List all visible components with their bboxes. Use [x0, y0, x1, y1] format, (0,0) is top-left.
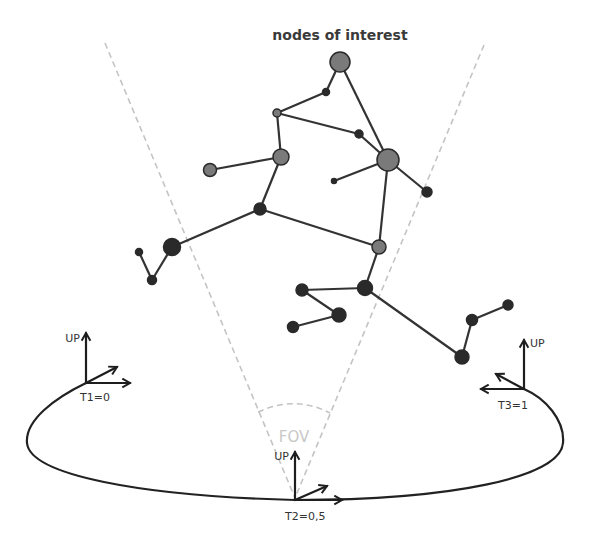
fov-arc [258, 404, 330, 413]
frame-label-t3: T3=1 [497, 399, 528, 412]
fov-cone: FOV [105, 43, 484, 498]
up-label: UP [274, 450, 289, 463]
graph-node [332, 179, 337, 184]
graph-node [503, 300, 513, 310]
fov-right-boundary [295, 45, 484, 498]
graph-node [455, 350, 469, 364]
graph-edge [277, 113, 359, 134]
side-arrow-icon [86, 367, 117, 383]
graph-node [323, 89, 330, 96]
graph-node [377, 149, 399, 171]
side-arrow-icon [295, 486, 327, 500]
graph-node [358, 281, 373, 296]
camera-path-diagram: nodes of interest FOV UP T1=0 UP T2=0,5 … [0, 0, 589, 545]
frame-label-t2: T2=0,5 [284, 510, 325, 523]
fov-label: FOV [279, 428, 310, 446]
graph-edge [260, 209, 379, 247]
graph-node [422, 187, 432, 197]
graph-node [164, 239, 181, 256]
graph-edge [340, 62, 388, 160]
camera-frame-t2: UP T2=0,5 [274, 450, 342, 523]
graph-node [273, 109, 281, 117]
fov-left-boundary [105, 43, 295, 498]
frame-label-t1: T1=0 [79, 391, 110, 404]
up-label: UP [530, 337, 545, 350]
camera-frame-t3: UP T3=1 [481, 337, 545, 412]
up-label: UP [65, 332, 80, 345]
graph-node [330, 52, 350, 72]
graph-edge [302, 288, 365, 290]
side-arrow-icon [496, 374, 524, 389]
graph-node [254, 203, 266, 215]
graph-node [332, 308, 346, 322]
graph-node [204, 164, 217, 177]
camera-frame-t1: UP T1=0 [65, 332, 130, 404]
graph-edge [365, 288, 462, 357]
graph-nodes [136, 52, 514, 364]
graph-node [355, 130, 363, 138]
graph-edges [139, 62, 508, 357]
graph-node [136, 249, 143, 256]
graph-node [372, 240, 386, 254]
graph-node [288, 322, 299, 333]
graph-node [273, 149, 289, 165]
graph-node [148, 276, 157, 285]
graph-node [296, 284, 308, 296]
graph-edge [172, 209, 260, 247]
graph-edge [210, 157, 281, 170]
graph-edge [277, 92, 326, 113]
graph-node [467, 315, 478, 326]
graph-edge [379, 160, 388, 247]
diagram-title: nodes of interest [272, 27, 408, 43]
